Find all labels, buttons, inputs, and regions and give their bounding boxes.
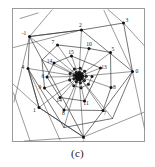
vertex-label: -1: [22, 30, 27, 36]
figure-caption: (c): [0, 147, 155, 159]
vertex-label: 8: [62, 110, 65, 116]
vertex-point: [38, 106, 41, 109]
vertex-label: 6: [42, 73, 45, 79]
vertex-label: 14: [47, 58, 53, 64]
vertex-point: [43, 87, 46, 90]
vertex-point: [70, 55, 73, 58]
vertex-label: 15: [68, 49, 74, 55]
cluster-core: [75, 72, 83, 80]
vertex-label: 11: [83, 100, 89, 106]
vertex-label: 14: [56, 97, 62, 103]
polygon-edge: [111, 53, 112, 88]
vertex-label: 4: [22, 64, 25, 70]
vertex-point: [110, 86, 113, 89]
vertex-label: 7: [52, 39, 55, 45]
vertex-point: [46, 76, 49, 79]
vertex-label: 3: [126, 17, 129, 23]
figure-container: -12307147105878915141311146 (c): [0, 0, 155, 167]
vertex-point: [88, 47, 91, 50]
vertex-point: [27, 67, 30, 70]
vertex-point: [131, 70, 134, 73]
vertex-point: [56, 44, 59, 47]
spiral-polygon-figure: -12307147105878915141311146: [0, 0, 155, 167]
vertex-label: 9: [39, 84, 42, 90]
vertex-label: 7: [104, 110, 107, 116]
vertex-label: 8: [113, 84, 116, 90]
vertex-label: 13: [101, 64, 107, 70]
vertex-label: 10: [86, 41, 92, 47]
vertex-label: 1: [33, 107, 36, 113]
vertex-label: 0: [136, 68, 139, 74]
vertex-point: [122, 22, 125, 25]
vertex-point: [28, 35, 31, 38]
polygon-edge: [64, 110, 103, 111]
vertex-point: [80, 29, 83, 32]
vertex-label: 5: [112, 46, 115, 52]
vertex-label: 2: [79, 22, 82, 28]
vertex-point: [53, 62, 56, 65]
